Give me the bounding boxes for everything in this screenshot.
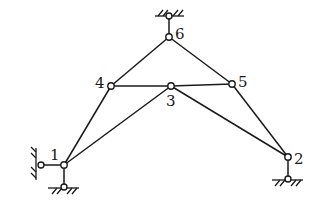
support-hinge-icon bbox=[166, 13, 172, 19]
support-hinge-icon bbox=[61, 184, 67, 190]
node-2 bbox=[285, 154, 291, 160]
node-label-3: 3 bbox=[166, 92, 176, 110]
node-1 bbox=[61, 162, 67, 168]
support-hinge-icon bbox=[285, 176, 291, 182]
node-label-6: 6 bbox=[175, 25, 185, 43]
member-3-2 bbox=[171, 86, 288, 157]
member-1-3 bbox=[64, 86, 171, 165]
member-6-5 bbox=[169, 37, 232, 84]
node-label-4: 4 bbox=[95, 74, 105, 92]
member-5-2 bbox=[232, 84, 288, 157]
node-4 bbox=[108, 83, 114, 89]
member-3-5 bbox=[171, 84, 232, 86]
node-label-5: 5 bbox=[238, 73, 248, 91]
node-label-2: 2 bbox=[294, 150, 304, 168]
node-3 bbox=[168, 83, 174, 89]
node-label-1: 1 bbox=[50, 146, 60, 164]
support-node-1-bottom bbox=[48, 165, 79, 194]
truss-nodes bbox=[61, 34, 291, 168]
node-5 bbox=[229, 81, 235, 87]
node-6 bbox=[166, 34, 172, 40]
member-4-6 bbox=[111, 37, 169, 86]
truss-members bbox=[64, 37, 288, 165]
member-1-4 bbox=[64, 86, 111, 165]
support-hinge-icon bbox=[38, 162, 44, 168]
truss-diagram: 1 2 3 4 5 6 bbox=[0, 0, 327, 215]
